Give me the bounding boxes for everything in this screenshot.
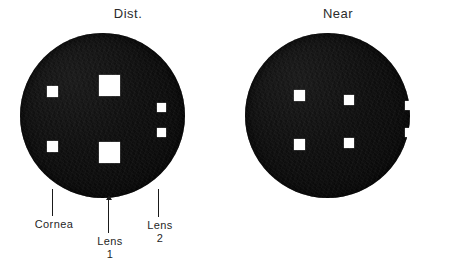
callout-label-lens-1: Lens1: [97, 235, 122, 261]
reflex-near-lens2-lower: [405, 128, 414, 137]
reflex-dist-cornea-upper: [47, 86, 58, 97]
panel-title-dist: Dist.: [114, 6, 143, 21]
reflex-dist-cornea-lower: [47, 141, 58, 152]
reflex-near-lens1-upper: [344, 95, 354, 105]
reflex-near-lens2-upper: [405, 101, 414, 110]
callout-label-lens-2: Lens2: [147, 219, 172, 245]
callout-text-lens-1: Lens: [97, 235, 122, 247]
reflex-dist-lens2-upper: [157, 103, 166, 112]
leader-arrow-lens-1: [106, 195, 112, 200]
pupil-disc-near: [245, 33, 410, 198]
callout-number-lens-2: 2: [147, 232, 172, 245]
leader-line-cornea: [52, 189, 53, 216]
callout-text-lens-2: Lens: [147, 219, 172, 231]
eye-reflex-figure: Dist.NearCorneaLens1Lens2: [0, 0, 451, 275]
callout-text-cornea: Cornea: [35, 218, 73, 230]
callout-label-cornea: Cornea: [35, 218, 73, 231]
panel-title-near: Near: [323, 6, 353, 21]
leader-line-lens-2: [158, 189, 159, 217]
reflex-near-lens1-lower: [344, 138, 354, 148]
reflex-dist-lens2-lower: [157, 128, 166, 137]
reflex-near-cornea-upper: [294, 90, 305, 101]
pupil-disc-dist: [20, 33, 185, 198]
callout-number-lens-1: 1: [97, 248, 122, 261]
reflex-dist-lens1-lower: [99, 142, 120, 163]
leader-line-lens-1: [108, 200, 109, 233]
reflex-dist-lens1-upper: [99, 75, 120, 96]
reflex-near-cornea-lower: [294, 139, 305, 150]
